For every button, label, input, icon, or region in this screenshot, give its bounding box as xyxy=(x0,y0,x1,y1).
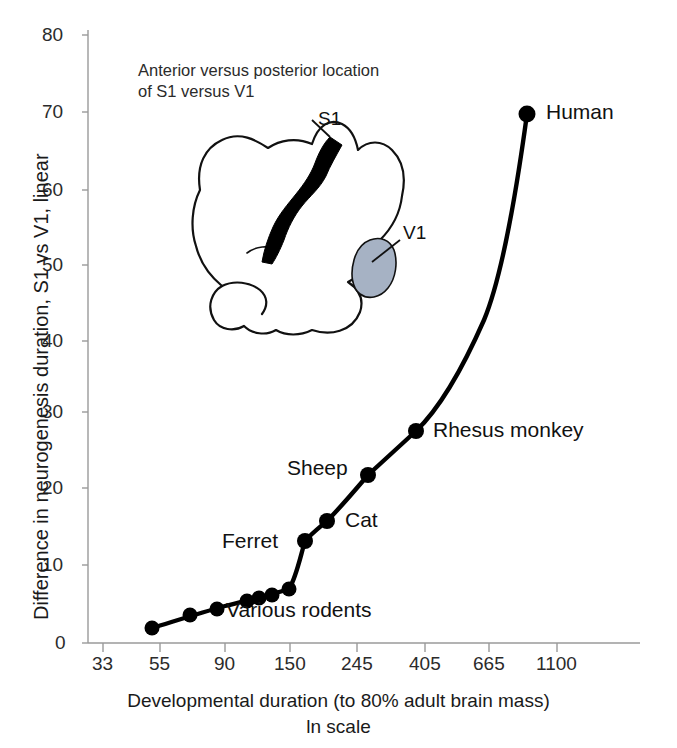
inset-caption-line2: of S1 versus V1 xyxy=(138,81,254,102)
point-label-various-rodents: Various rodents xyxy=(226,598,372,622)
x-axis-title: Developmental duration (to 80% adult bra… xyxy=(0,690,677,712)
point-label-sheep: Sheep xyxy=(287,456,348,480)
point-label-ferret: Ferret xyxy=(222,529,278,553)
y-tick-label-70: 70 xyxy=(42,101,63,123)
figure-panel: 80 70 60 50 40 30 20 10 0 33 55 90 150 2… xyxy=(0,0,677,748)
x-tick-label-405: 405 xyxy=(409,653,441,675)
brain-outline xyxy=(193,122,404,335)
data-point-ferret xyxy=(297,533,313,549)
y-axis-title: Difference in neurogenesis duration, S1 … xyxy=(30,153,53,620)
x-tick-label-90: 90 xyxy=(214,653,235,675)
data-point-rodent-7 xyxy=(282,582,297,597)
data-point-sheep xyxy=(360,467,376,483)
x-tick-marks xyxy=(103,643,557,652)
data-point-human xyxy=(519,106,536,123)
data-point-rhesus-monkey xyxy=(408,423,424,439)
inset-label-s1: S1 xyxy=(318,108,341,130)
data-point-rodent-3 xyxy=(210,602,225,617)
data-point-rodent-1 xyxy=(145,621,160,636)
x-tick-label-33: 33 xyxy=(92,653,113,675)
y-tick-label-0: 0 xyxy=(55,632,66,654)
x-tick-label-55: 55 xyxy=(149,653,170,675)
data-point-rodent-2 xyxy=(183,608,198,623)
inset-caption-line1: Anterior versus posterior location xyxy=(138,60,379,81)
x-tick-label-245: 245 xyxy=(341,653,373,675)
inset-label-v1: V1 xyxy=(403,222,426,244)
x-axis-subtitle: ln scale xyxy=(0,716,677,738)
x-tick-label-665: 665 xyxy=(473,653,505,675)
y-tick-marks xyxy=(82,35,88,643)
data-point-cat xyxy=(319,513,335,529)
y-tick-label-80: 80 xyxy=(42,24,63,46)
x-tick-label-150: 150 xyxy=(274,653,306,675)
brain-inset-diagram xyxy=(193,120,404,335)
point-label-rhesus-monkey: Rhesus monkey xyxy=(433,418,584,442)
point-label-cat: Cat xyxy=(345,508,378,532)
x-tick-label-1100: 1100 xyxy=(536,653,577,675)
point-label-human: Human xyxy=(546,100,614,124)
